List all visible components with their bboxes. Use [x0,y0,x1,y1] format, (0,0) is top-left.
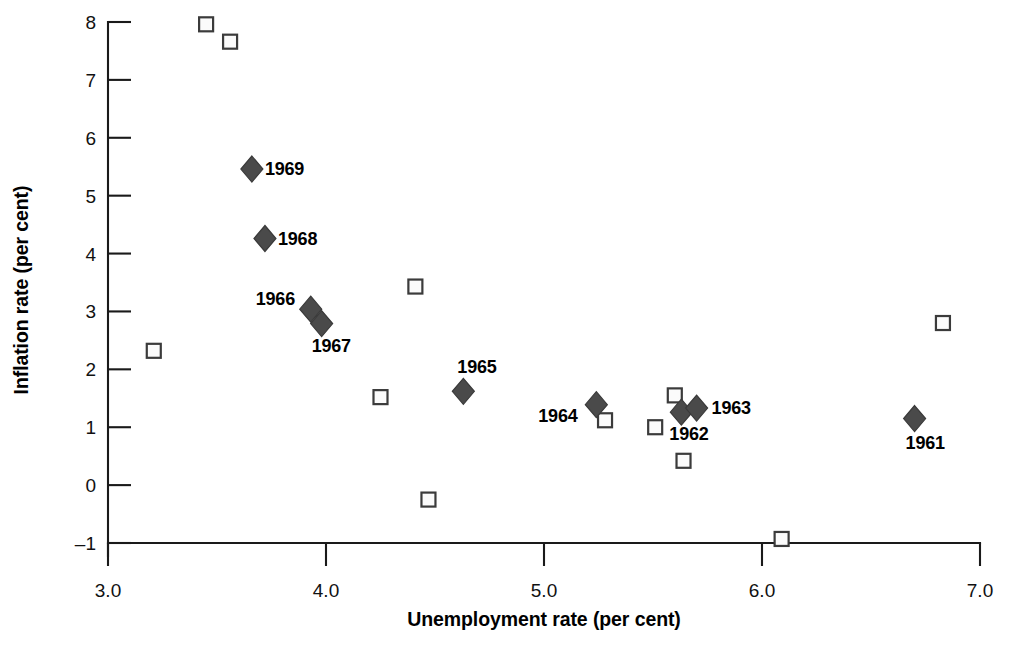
x-tick-label: 6.0 [749,580,775,601]
y-tick-label: 0 [85,475,96,496]
x-tick-label: 4.0 [313,580,339,601]
y-axis-ticks: 876543210–1 [75,12,131,554]
x-axis-title: Unemployment rate (per cent) [407,608,681,630]
data-point-label: 1961 [906,433,945,453]
data-point-open-square [775,532,789,546]
y-tick-label: 1 [85,417,96,438]
axes [108,22,980,556]
data-point-label: 1966 [256,289,295,309]
data-point-filled-diamond [904,406,926,432]
data-point-open-square [648,420,662,434]
data-point-label: 1968 [278,229,317,249]
y-tick-label: 5 [85,186,96,207]
y-axis-title: Inflation rate (per cent) [10,186,32,395]
x-axis-ticks: 3.04.05.06.07.0 [95,543,993,601]
data-point-open-square [677,454,691,468]
data-point-label: 1967 [312,336,351,356]
data-point-label: 1965 [457,357,496,377]
y-tick-label: 8 [85,12,96,33]
y-tick-label: 2 [85,359,96,380]
y-tick-label: 7 [85,70,96,91]
y-tick-label: 6 [85,128,96,149]
data-point-label: 1963 [712,398,751,418]
y-tick-label: –1 [75,533,96,554]
x-tick-label: 7.0 [967,580,993,601]
data-point-open-square [598,413,612,427]
data-point-filled-diamond [241,156,263,182]
x-tick-label: 5.0 [531,580,557,601]
scatter-chart-figure: 876543210–1 3.04.05.06.07.0 196919681966… [0,0,1014,651]
y-tick-label: 3 [85,301,96,322]
data-point-filled-diamond [254,226,276,252]
data-point-open-square [936,316,950,330]
y-tick-label: 4 [85,244,96,265]
data-point-open-square [421,493,435,507]
data-point-label: 1969 [265,159,304,179]
data-point-open-square [199,17,213,31]
data-point-open-square [408,280,422,294]
plot-canvas: 876543210–1 3.04.05.06.07.0 196919681966… [0,0,1014,651]
x-tick-label: 3.0 [95,580,121,601]
open-square-markers [147,17,950,546]
data-point-filled-diamond [452,378,474,404]
data-point-open-square [374,390,388,404]
data-point-label: 1962 [669,424,708,444]
data-point-filled-diamond [686,395,708,421]
data-point-open-square [147,344,161,358]
data-point-open-square [223,35,237,49]
filled-diamond-markers [241,156,926,432]
data-point-label: 1964 [538,406,577,426]
